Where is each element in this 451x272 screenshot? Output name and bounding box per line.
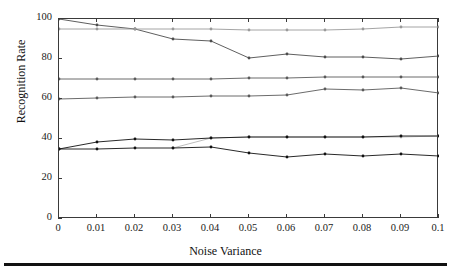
data-point-marker (248, 57, 251, 60)
plot-area (58, 18, 438, 218)
data-point-marker (438, 92, 439, 95)
x-tick-mark-top (438, 18, 439, 22)
x-tick-label: 0.03 (152, 222, 192, 233)
x-axis-title: Noise Variance (0, 244, 451, 259)
series-series-2-flat-95 (59, 26, 439, 32)
data-point-marker (400, 153, 403, 156)
data-point-marker (172, 139, 175, 142)
data-point-marker (362, 155, 365, 158)
data-point-marker (362, 89, 365, 92)
x-tick-label: 0 (38, 222, 78, 233)
x-tick-mark-top (96, 18, 97, 22)
data-point-marker (438, 76, 439, 79)
data-point-marker (438, 26, 439, 29)
data-point-marker (248, 95, 251, 98)
data-point-marker (286, 77, 289, 80)
data-point-marker (172, 78, 175, 81)
data-point-marker (400, 76, 403, 79)
x-tick-mark-top (134, 18, 135, 22)
data-point-marker (324, 153, 327, 156)
data-point-marker (324, 88, 327, 91)
x-tick-mark (362, 214, 363, 218)
x-tick-label: 0.04 (190, 222, 230, 233)
y-axis-title: Recognition Rate (14, 12, 29, 152)
x-tick-mark-top (362, 18, 363, 22)
x-tick-mark (96, 214, 97, 218)
x-tick-mark (286, 214, 287, 218)
y-tick-mark (58, 218, 62, 219)
x-tick-mark-top (172, 18, 173, 22)
x-tick-label: 0.08 (342, 222, 382, 233)
data-point-marker (210, 137, 213, 140)
data-point-marker (134, 78, 137, 81)
x-tick-mark-top (400, 18, 401, 22)
data-point-marker (96, 141, 99, 144)
data-point-marker (134, 147, 137, 150)
x-tick-label: 0.07 (304, 222, 344, 233)
y-tick-mark (58, 98, 62, 99)
footer-rule (4, 263, 447, 266)
data-point-marker (96, 97, 99, 100)
data-point-marker (210, 40, 213, 43)
data-point-marker (438, 135, 439, 138)
x-tick-label: 0.1 (418, 222, 451, 233)
data-point-marker (324, 136, 327, 139)
data-point-marker (96, 28, 99, 31)
data-point-marker (324, 29, 327, 32)
x-tick-label: 0.09 (380, 222, 420, 233)
data-point-marker (210, 95, 213, 98)
data-point-marker (210, 146, 213, 149)
y-tick-label: 20 (22, 171, 52, 182)
x-tick-mark-top (58, 18, 59, 22)
x-tick-mark (400, 214, 401, 218)
x-tick-mark (172, 214, 173, 218)
series-plot-svg (59, 19, 439, 219)
x-tick-mark-top (248, 18, 249, 22)
data-point-marker (96, 78, 99, 81)
data-point-marker (400, 26, 403, 29)
data-point-marker (59, 78, 60, 81)
x-tick-mark-top (324, 18, 325, 22)
data-point-marker (286, 53, 289, 56)
x-tick-mark (210, 214, 211, 218)
x-tick-mark-top (210, 18, 211, 22)
data-point-marker (59, 148, 60, 151)
x-tick-mark (438, 214, 439, 218)
data-point-marker (134, 28, 137, 31)
x-tick-label: 0.05 (228, 222, 268, 233)
data-point-marker (96, 148, 99, 151)
data-point-marker (210, 78, 213, 81)
y-tick-mark (58, 58, 62, 59)
data-point-marker (59, 19, 60, 20)
x-tick-mark-top (286, 18, 287, 22)
y-tick-label: 0 (22, 211, 52, 222)
data-point-marker (400, 135, 403, 138)
data-point-marker (286, 156, 289, 159)
y-tick-mark (58, 178, 62, 179)
x-tick-mark (58, 214, 59, 218)
data-point-marker (324, 56, 327, 59)
data-point-marker (400, 58, 403, 61)
data-point-marker (286, 136, 289, 139)
data-point-marker (286, 29, 289, 32)
data-point-marker (59, 28, 60, 31)
data-point-marker (134, 96, 137, 99)
data-point-marker (362, 56, 365, 59)
series-line (59, 19, 439, 59)
data-point-marker (248, 77, 251, 80)
x-tick-mark (248, 214, 249, 218)
data-point-marker (362, 28, 365, 31)
x-tick-label: 0.06 (266, 222, 306, 233)
y-tick-mark (58, 138, 62, 139)
data-point-marker (324, 76, 327, 79)
data-point-marker (210, 28, 213, 31)
x-tick-mark (324, 214, 325, 218)
data-point-marker (248, 29, 251, 32)
x-tick-label: 0.02 (114, 222, 154, 233)
data-point-marker (248, 136, 251, 139)
x-tick-label: 0.01 (76, 222, 116, 233)
figure-recognition-rate-vs-noise-variance: 020406080100 00.010.020.030.040.050.060.… (0, 0, 451, 272)
data-point-marker (362, 136, 365, 139)
data-point-marker (400, 87, 403, 90)
data-point-marker (172, 147, 175, 150)
